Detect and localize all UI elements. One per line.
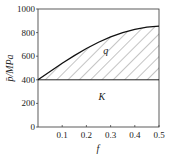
x-tick-label: 0.3 [105,130,117,140]
y-axis-label: p̄/MPa [4,54,15,82]
y-tick-label: 600 [22,51,36,61]
y-tick-label: 1000 [17,4,36,14]
x-axis-label: f [97,143,101,154]
annotation-q: q [103,45,108,56]
x-tick-label: 0.1 [57,130,68,140]
hatched-region-q [38,26,159,80]
y-tick-label: 800 [22,28,36,38]
chart: 020040060080010000.10.20.30.40.5 q K f p… [0,0,169,156]
x-tick-label: 0.5 [153,130,165,140]
y-tick-label: 400 [22,75,36,85]
y-tick-label: 0 [31,122,36,132]
annotation-k: K [98,91,107,102]
x-tick-label: 0.4 [129,130,141,140]
x-tick-label: 0.2 [81,130,92,140]
y-tick-label: 200 [22,98,36,108]
